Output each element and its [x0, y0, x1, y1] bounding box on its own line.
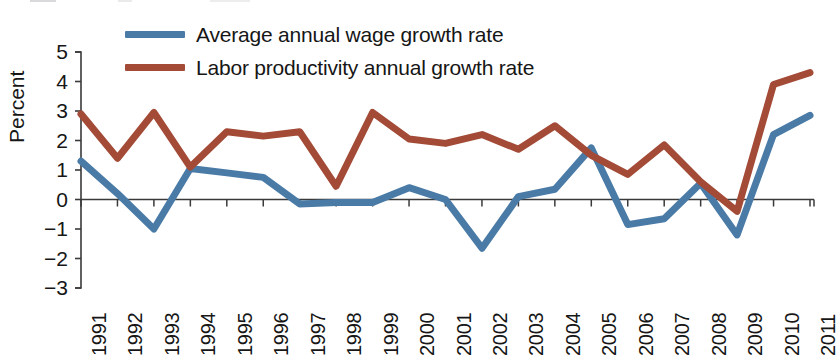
- data-series-group: [81, 73, 810, 249]
- series-line-labor-productivity: [81, 73, 810, 212]
- axis-lines: [75, 52, 81, 288]
